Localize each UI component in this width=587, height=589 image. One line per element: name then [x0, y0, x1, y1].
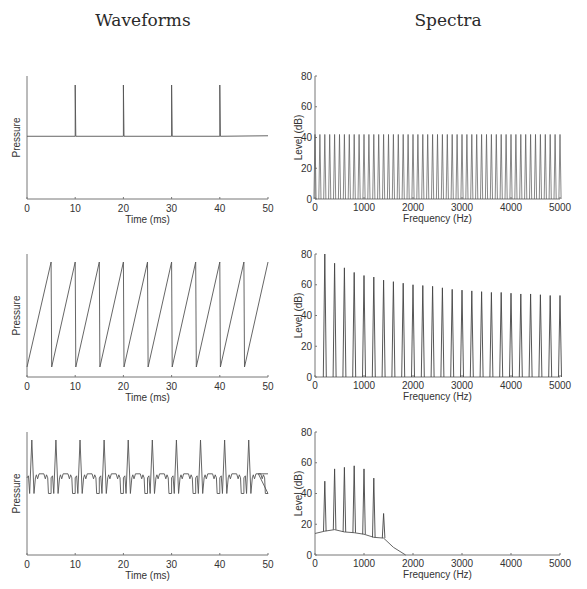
svg-text:20: 20 [301, 163, 313, 174]
svg-text:4000: 4000 [500, 380, 523, 391]
svg-text:10: 10 [70, 381, 82, 392]
svg-text:30: 30 [166, 559, 178, 570]
svg-text:Time (ms): Time (ms) [125, 570, 170, 581]
spectrum-sawtooth-plot: 020406080010002000300040005000Frequency … [293, 249, 572, 403]
svg-text:Frequency (Hz): Frequency (Hz) [403, 569, 472, 580]
svg-text:0: 0 [312, 558, 318, 569]
svg-text:0: 0 [24, 381, 30, 392]
svg-text:Time (ms): Time (ms) [125, 214, 170, 225]
svg-text:10: 10 [70, 559, 82, 570]
svg-text:50: 50 [262, 203, 274, 214]
svg-text:Time (ms): Time (ms) [125, 392, 170, 403]
svg-text:20: 20 [301, 341, 313, 352]
svg-text:80: 80 [301, 71, 313, 82]
svg-text:5000: 5000 [549, 202, 572, 213]
svg-text:Level (dB): Level (dB) [293, 115, 304, 161]
svg-text:Level (dB): Level (dB) [293, 293, 304, 339]
svg-text:10: 10 [70, 203, 82, 214]
svg-text:60: 60 [301, 279, 313, 290]
waveform-complex-plot: 01020304050Time (ms)Pressure [11, 432, 274, 581]
svg-text:1000: 1000 [353, 202, 376, 213]
svg-text:4000: 4000 [500, 558, 523, 569]
spectrum-impulse-train-plot: 020406080010002000300040005000Frequency … [293, 71, 572, 225]
svg-text:Pressure: Pressure [11, 295, 22, 335]
svg-text:40: 40 [214, 381, 226, 392]
svg-text:Level (dB): Level (dB) [293, 471, 304, 517]
svg-text:3000: 3000 [451, 202, 474, 213]
svg-text:80: 80 [301, 249, 313, 260]
svg-text:2000: 2000 [402, 558, 425, 569]
svg-text:Pressure: Pressure [11, 473, 22, 513]
svg-text:5000: 5000 [549, 380, 572, 391]
svg-text:80: 80 [301, 427, 313, 438]
svg-text:20: 20 [118, 559, 130, 570]
svg-text:30: 30 [166, 381, 178, 392]
svg-text:5000: 5000 [549, 558, 572, 569]
svg-text:1000: 1000 [353, 558, 376, 569]
svg-text:0: 0 [312, 202, 318, 213]
svg-text:0: 0 [312, 380, 318, 391]
svg-text:50: 50 [262, 559, 274, 570]
svg-text:Pressure: Pressure [11, 117, 22, 157]
svg-text:60: 60 [301, 101, 313, 112]
waveform-impulse-train-plot: 01020304050Time (ms)Pressure [11, 76, 274, 225]
svg-text:4000: 4000 [500, 202, 523, 213]
svg-text:Frequency (Hz): Frequency (Hz) [403, 391, 472, 402]
svg-text:50: 50 [262, 381, 274, 392]
svg-text:2000: 2000 [402, 202, 425, 213]
svg-text:20: 20 [118, 203, 130, 214]
svg-text:3000: 3000 [451, 380, 474, 391]
svg-text:40: 40 [214, 203, 226, 214]
svg-text:1000: 1000 [353, 380, 376, 391]
svg-text:0: 0 [24, 203, 30, 214]
spectrum-complex-plot: 020406080010002000300040005000Frequency … [293, 427, 572, 581]
waveform-sawtooth-plot: 01020304050Time (ms)Pressure [11, 254, 274, 403]
svg-text:2000: 2000 [402, 380, 425, 391]
svg-text:60: 60 [301, 457, 313, 468]
svg-text:20: 20 [118, 381, 130, 392]
svg-text:3000: 3000 [451, 558, 474, 569]
svg-text:0: 0 [24, 559, 30, 570]
svg-text:30: 30 [166, 203, 178, 214]
svg-text:Frequency (Hz): Frequency (Hz) [403, 213, 472, 224]
svg-text:40: 40 [214, 559, 226, 570]
figure-canvas: 01020304050Time (ms)Pressure020406080010… [0, 0, 587, 589]
svg-text:20: 20 [301, 519, 313, 530]
